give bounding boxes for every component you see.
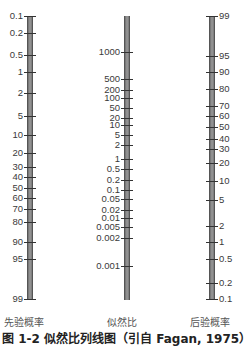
tick-mark bbox=[24, 222, 36, 223]
tick-label: 0.1 bbox=[219, 294, 232, 304]
tick-mark bbox=[206, 283, 218, 284]
tick-mark bbox=[121, 169, 133, 170]
tick-mark bbox=[206, 181, 218, 182]
tick-label: 95 bbox=[12, 254, 23, 264]
tick-mark bbox=[121, 90, 133, 91]
tick-label: 0.5 bbox=[219, 254, 232, 264]
tick-mark bbox=[206, 127, 218, 128]
tick-mark bbox=[24, 153, 36, 154]
tick-mark bbox=[121, 180, 133, 181]
tick-mark bbox=[121, 210, 133, 211]
tick-mark bbox=[121, 266, 133, 267]
tick-mark bbox=[206, 259, 218, 260]
tick-mark bbox=[206, 89, 218, 90]
tick-mark bbox=[121, 218, 133, 219]
tick-mark bbox=[24, 93, 36, 94]
tick-label: 50 bbox=[219, 122, 230, 132]
tick-mark bbox=[121, 199, 133, 200]
tick-mark bbox=[24, 135, 36, 136]
posttest-probability-title: 后验概率 bbox=[190, 314, 230, 329]
tick-label: 99 bbox=[219, 11, 230, 21]
tick-mark bbox=[206, 163, 218, 164]
tick-label: 60 bbox=[219, 111, 230, 121]
tick-mark bbox=[206, 226, 218, 227]
tick-label: 40 bbox=[12, 172, 23, 182]
tick-label: 0.2 bbox=[219, 278, 232, 288]
tick-label: 20 bbox=[219, 158, 230, 168]
tick-label: 0.001 bbox=[96, 261, 120, 271]
tick-label: 10 bbox=[12, 130, 23, 140]
tick-label: 0.5 bbox=[107, 164, 120, 174]
tick-mark bbox=[24, 72, 36, 73]
tick-mark bbox=[206, 106, 218, 107]
tick-label: 0.002 bbox=[96, 233, 120, 243]
tick-mark bbox=[24, 259, 36, 260]
tick-mark bbox=[206, 242, 218, 243]
tick-mark bbox=[24, 177, 36, 178]
tick-mark bbox=[206, 299, 218, 300]
tick-mark bbox=[24, 299, 36, 300]
tick-mark bbox=[24, 33, 36, 34]
tick-mark bbox=[24, 209, 36, 210]
tick-mark bbox=[24, 16, 36, 17]
tick-mark bbox=[24, 198, 36, 199]
tick-label: 70 bbox=[12, 204, 23, 214]
tick-mark bbox=[206, 200, 218, 201]
tick-label: 2 bbox=[115, 140, 120, 150]
tick-mark bbox=[121, 118, 133, 119]
tick-mark bbox=[121, 159, 133, 160]
figure-caption: 图 1-2 似然比列线图（引自 Fagan, 1975） bbox=[2, 329, 251, 346]
posttest-probability-bar bbox=[209, 16, 215, 300]
pretest-probability-bar bbox=[27, 16, 33, 300]
tick-mark bbox=[121, 108, 133, 109]
tick-mark bbox=[121, 52, 133, 53]
tick-label: 80 bbox=[219, 84, 230, 94]
tick-label: 0.5 bbox=[10, 50, 23, 60]
tick-label: 1 bbox=[219, 237, 224, 247]
tick-mark bbox=[206, 116, 218, 117]
tick-mark bbox=[206, 56, 218, 57]
tick-label: 1000 bbox=[99, 47, 120, 57]
tick-mark bbox=[121, 125, 133, 126]
tick-label: 90 bbox=[12, 237, 23, 247]
tick-label: 95 bbox=[219, 51, 230, 61]
tick-label: 2 bbox=[219, 221, 224, 231]
tick-mark bbox=[121, 135, 133, 136]
tick-mark bbox=[121, 98, 133, 99]
tick-label: 0.05 bbox=[102, 194, 121, 204]
likelihood-ratio-bar bbox=[124, 16, 130, 300]
tick-mark bbox=[121, 145, 133, 146]
tick-label: 10 bbox=[219, 176, 230, 186]
tick-mark bbox=[206, 139, 218, 140]
tick-mark bbox=[24, 188, 36, 189]
tick-label: 2 bbox=[18, 88, 23, 98]
tick-label: 99 bbox=[12, 294, 23, 304]
tick-mark bbox=[121, 190, 133, 191]
tick-label: 1 bbox=[18, 67, 23, 77]
tick-label: 20 bbox=[12, 148, 23, 158]
tick-mark bbox=[24, 55, 36, 56]
tick-label: 0.1 bbox=[10, 11, 23, 21]
tick-label: 5 bbox=[219, 195, 224, 205]
tick-mark bbox=[24, 116, 36, 117]
tick-label: 30 bbox=[219, 144, 230, 154]
likelihood-ratio-title: 似然比 bbox=[107, 314, 137, 329]
tick-label: 500 bbox=[104, 74, 120, 84]
tick-label: 0.2 bbox=[10, 28, 23, 38]
tick-mark bbox=[206, 149, 218, 150]
tick-mark bbox=[206, 16, 218, 17]
pretest-probability-title: 先验概率 bbox=[4, 314, 44, 329]
tick-mark bbox=[121, 227, 133, 228]
tick-mark bbox=[206, 72, 218, 73]
tick-mark bbox=[121, 238, 133, 239]
tick-label: 90 bbox=[219, 67, 230, 77]
tick-mark bbox=[24, 242, 36, 243]
tick-label: 80 bbox=[12, 217, 23, 227]
tick-label: 0.005 bbox=[96, 222, 120, 232]
tick-mark bbox=[24, 167, 36, 168]
tick-label: 5 bbox=[18, 111, 23, 121]
tick-label: 60 bbox=[12, 193, 23, 203]
tick-mark bbox=[121, 79, 133, 80]
